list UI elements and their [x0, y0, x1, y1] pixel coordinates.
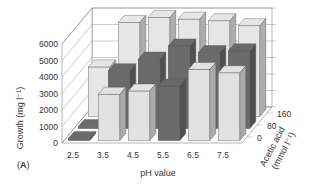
x-tick-label: 7.5	[217, 150, 229, 160]
y-axis-title: Growth (mg l⁻¹)	[15, 87, 25, 150]
x-axis-title: pH value	[140, 168, 176, 178]
bar-chart-3d: 01000200030004000500060002.53.54.55.56.5…	[0, 0, 320, 189]
y-tick-label: 1000	[39, 122, 58, 132]
x-tick-label: 3.5	[97, 150, 109, 160]
bar	[158, 79, 186, 141]
y-tick-label: 3000	[39, 89, 58, 99]
y-tick-label: 0	[53, 138, 58, 148]
y-tick-label: 6000	[39, 39, 58, 49]
panel-label: (A)	[17, 160, 30, 170]
bar	[98, 87, 126, 140]
z-tick-label: 160	[277, 109, 291, 119]
x-tick-label: 4.5	[127, 150, 139, 160]
x-tick-label: 2.5	[67, 150, 79, 160]
bar	[218, 66, 246, 141]
bar	[188, 62, 216, 140]
x-tick-label: 6.5	[187, 150, 199, 160]
x-tick-label: 5.5	[157, 150, 169, 160]
z-tick-label: 0	[257, 133, 262, 143]
y-tick-label: 5000	[39, 56, 58, 66]
bar	[128, 84, 156, 141]
y-tick-label: 4000	[39, 72, 58, 82]
y-tick-label: 2000	[39, 105, 58, 115]
